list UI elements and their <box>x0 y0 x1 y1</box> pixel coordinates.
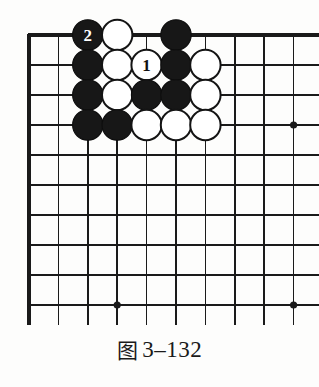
star-point-bottom-right-icon <box>290 301 297 308</box>
stone-white-c3r2[interactable] <box>102 80 132 110</box>
figure-caption: 图3–132 <box>0 338 319 362</box>
stone-black-c2r2[interactable] <box>73 80 103 110</box>
white-stone-icon <box>161 110 191 140</box>
white-stone-icon <box>190 110 220 140</box>
stone-black-c3r3[interactable] <box>102 110 132 140</box>
white-stone-icon <box>102 20 132 50</box>
white-stone-icon <box>190 50 220 80</box>
stone-black-c2r1[interactable] <box>73 50 103 80</box>
black-stone-icon <box>131 80 161 110</box>
stone-black-c5r2[interactable] <box>161 80 191 110</box>
star-point-right-upper-icon <box>290 121 297 128</box>
move-number-label: 1 <box>142 56 151 75</box>
black-stone-icon <box>102 110 132 140</box>
black-stone-icon <box>161 80 191 110</box>
black-stone-icon <box>73 50 103 80</box>
black-stone-icon <box>73 110 103 140</box>
stone-white-move-1[interactable]: 1 <box>131 50 161 80</box>
stone-black-c5r1[interactable] <box>161 50 191 80</box>
stone-black-c2r3[interactable] <box>73 110 103 140</box>
white-stone-icon <box>102 50 132 80</box>
stone-black-c4r2[interactable] <box>131 80 161 110</box>
black-stone-icon <box>161 20 191 50</box>
star-point-bottom-left-icon <box>114 301 121 308</box>
stone-white-c3r0[interactable] <box>102 20 132 50</box>
go-board-canvas[interactable]: 21 <box>0 0 319 325</box>
white-stone-icon <box>190 80 220 110</box>
stone-white-c6r2[interactable] <box>190 80 220 110</box>
figure-caption-cjk: 图 <box>117 339 139 363</box>
black-stone-icon <box>73 80 103 110</box>
go-figure: 21 图3–132 <box>0 0 319 387</box>
stone-white-c3r1[interactable] <box>102 50 132 80</box>
black-stone-icon <box>161 50 191 80</box>
stone-white-c6r1[interactable] <box>190 50 220 80</box>
move-number-label: 2 <box>84 26 93 45</box>
stone-white-c6r3[interactable] <box>190 110 220 140</box>
figure-caption-number: 3–132 <box>142 337 202 362</box>
white-stone-icon <box>102 80 132 110</box>
stone-white-c5r3[interactable] <box>161 110 191 140</box>
stone-white-c4r3[interactable] <box>131 110 161 140</box>
stone-black-move-2[interactable]: 2 <box>73 20 103 50</box>
stone-black-c5r0[interactable] <box>161 20 191 50</box>
white-stone-icon <box>131 110 161 140</box>
go-board[interactable]: 21 <box>0 0 319 325</box>
